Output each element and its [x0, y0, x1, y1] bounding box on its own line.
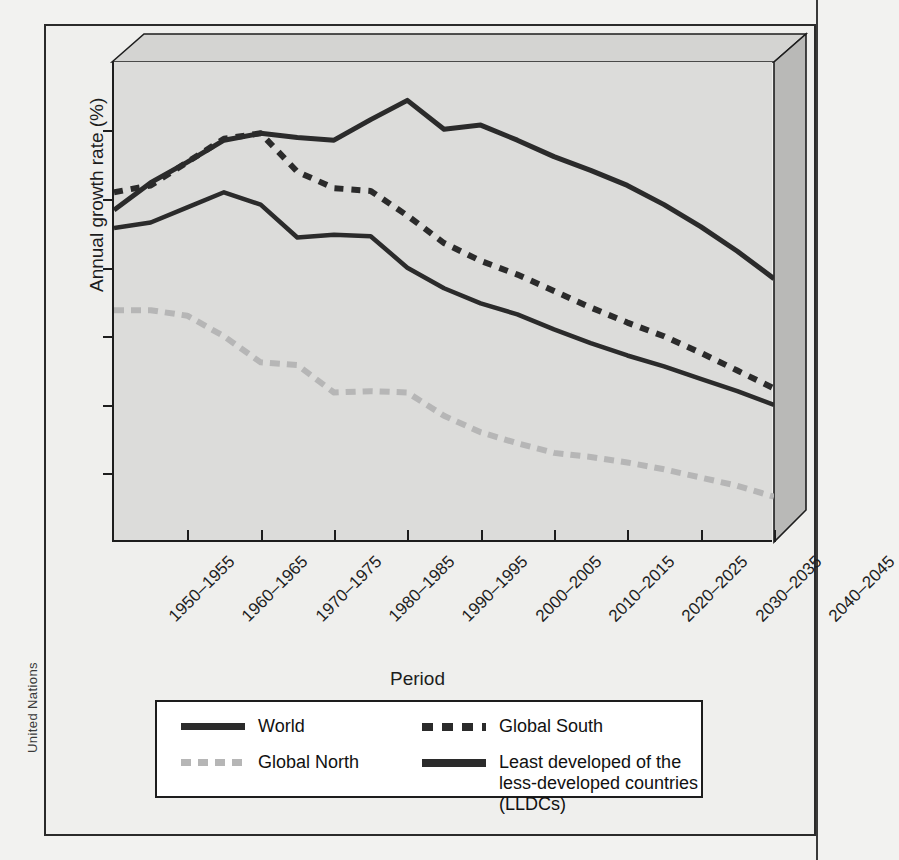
- series-layer: [114, 62, 774, 542]
- chart-legend: World Global South Global North Least de…: [155, 700, 703, 798]
- y-tickmark: [103, 473, 114, 475]
- x-tick-label: 2040–2045: [825, 552, 899, 626]
- line-dashed-dark-icon: [422, 723, 486, 731]
- x-tickmark: [554, 530, 556, 542]
- source-credit: United Nations: [25, 648, 40, 768]
- y-tickmark: [103, 336, 114, 338]
- x-tickmark: [407, 530, 409, 542]
- y-tickmark: [103, 268, 114, 270]
- y-tickmark: [103, 130, 114, 132]
- x-tickmark: [334, 530, 336, 542]
- y-axis-label: Annual growth rate (%): [86, 0, 108, 292]
- legend-label-line1: Least developed of the: [499, 752, 681, 772]
- legend-item-world[interactable]: World: [181, 716, 305, 737]
- x-tickmark: [261, 530, 263, 542]
- series-line: [114, 192, 774, 405]
- x-tickmark: [481, 530, 483, 542]
- legend-label-lldc: Least developed of the less-developed co…: [499, 752, 701, 815]
- series-line: [114, 100, 774, 278]
- x-tickmark: [774, 530, 776, 542]
- line-solid-thick-icon: [422, 759, 486, 767]
- x-axis-label: Period: [0, 668, 835, 690]
- y-tickmark: [103, 405, 114, 407]
- x-tickmark: [701, 530, 703, 542]
- legend-label: World: [258, 716, 305, 737]
- x-tickmark: [627, 530, 629, 542]
- line-solid-dark-icon: [181, 723, 245, 730]
- plot-area: Annual growth rate (%) 3.0 2.5 2.0 1.5 1…: [112, 62, 772, 542]
- legend-item-lldc[interactable]: Least developed of the less-developed co…: [422, 752, 701, 815]
- legend-label: Global South: [499, 716, 603, 737]
- y-tickmark: [103, 199, 114, 201]
- legend-label: Global North: [258, 752, 359, 773]
- x-tickmark: [187, 530, 189, 542]
- legend-item-global-south[interactable]: Global South: [422, 716, 603, 737]
- legend-item-global-north[interactable]: Global North: [181, 752, 359, 773]
- line-dashed-light-icon: [181, 759, 245, 766]
- series-line: [114, 133, 774, 388]
- page-right-rule: [816, 0, 818, 860]
- legend-label-line2: less-developed countries (LLDCs): [499, 773, 698, 814]
